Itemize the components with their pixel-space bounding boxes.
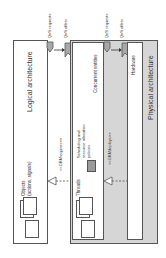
qos-offers-label-top: QoS offers	[64, 19, 68, 38]
grm-deploys-arrow	[102, 175, 130, 187]
qos-offers-label-bottom: QoS offers	[120, 19, 124, 38]
policy-icon	[87, 160, 96, 172]
grm-deploys-label: <<GRMdeploys>>	[108, 133, 112, 165]
threads-label: Threads	[77, 179, 82, 196]
thread-doc-2	[79, 197, 93, 215]
qos-requests-label-top: QoS requests	[48, 14, 52, 38]
logical-architecture-title: Logical architecture	[26, 51, 33, 112]
hardware-title: Hardware	[132, 55, 137, 75]
object-doc-3	[25, 220, 39, 238]
thread-doc-3	[81, 220, 95, 238]
grm-requires-label: <<GRMrequires>>	[59, 138, 63, 171]
objects-sublabel: (actions, signals)	[28, 162, 33, 196]
qos-requests-label-bottom: QoS requests	[105, 14, 109, 38]
concurrent-entities-title: Concurrent entities	[94, 54, 99, 93]
physical-architecture-title: Physical architecture	[147, 55, 154, 120]
object-doc-2	[23, 197, 37, 215]
policies-line-3: policies	[87, 145, 91, 158]
